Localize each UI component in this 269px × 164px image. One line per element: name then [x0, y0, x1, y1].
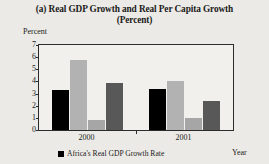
- chart-legend: Africa's Real GDP Growth Rate: [58, 150, 164, 158]
- chart-title-line-1: (a) Real GDP Growth and Real Per Capita …: [0, 4, 269, 15]
- bar-2001-series-1: [149, 89, 166, 130]
- y-axis-tick-mark: [36, 45, 39, 46]
- y-axis-tick-mark: [36, 81, 39, 82]
- chart-title: (a) Real GDP Growth and Real Per Capita …: [0, 4, 269, 26]
- bar-2001-series-4: [203, 101, 220, 130]
- y-axis-tick-mark: [36, 57, 39, 58]
- y-axis-tick-mark: [36, 130, 39, 131]
- x-axis-tick-label-2000: 2000: [67, 133, 107, 142]
- legend-label-africa-real-gdp-growth-rate: Africa's Real GDP Growth Rate: [67, 150, 164, 158]
- x-axis-tick-mark: [136, 130, 137, 134]
- y-axis-tick-mark: [36, 94, 39, 95]
- bar-2001-series-2: [167, 81, 184, 130]
- bar-2000-series-3: [88, 120, 105, 130]
- chart-figure: (a) Real GDP Growth and Real Per Capita …: [0, 0, 269, 164]
- x-axis-tick-label-2001: 2001: [164, 133, 204, 142]
- y-axis-tick-mark: [36, 118, 39, 119]
- y-axis-tick-mark: [36, 69, 39, 70]
- legend-swatch-africa-real-gdp-growth-rate: [58, 151, 64, 157]
- chart-title-line-2: (Percent): [0, 15, 269, 26]
- y-axis-title: Percent: [23, 27, 47, 36]
- x-axis-title: Year: [232, 148, 247, 157]
- bar-2000-series-2: [70, 60, 87, 130]
- bar-2001-series-3: [185, 118, 202, 130]
- bar-2000-series-1: [52, 90, 69, 130]
- plot-area: 01234567: [38, 44, 234, 131]
- y-axis-tick-mark: [36, 106, 39, 107]
- bar-2000-series-4: [106, 83, 123, 130]
